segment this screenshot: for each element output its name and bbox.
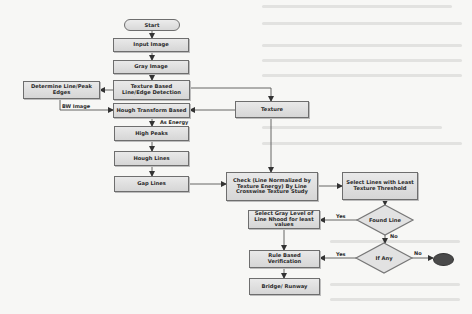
as-energy-label: As Energy [160,119,188,125]
gray-image-node: Gray Image [113,60,189,74]
select-gray-level-node: Select Gray Level of Line Nhood for leas… [248,210,320,229]
high-peaks-node: High Peaks [114,126,189,141]
hough-lines-node: Hough Lines [114,151,189,166]
rule-based-verification-node: Rule Based Verification [249,250,320,268]
end-node [433,253,454,266]
ifany-yes-label: Yes [336,251,346,257]
found-line-label: Found Line [369,217,401,223]
hough-transform-node: Hough Transform Based [113,103,190,118]
found-no-label: No [390,233,398,239]
start-node: Start [124,19,180,31]
ifany-no-label: No [414,250,422,256]
bw-image-label: BW Image [62,103,90,109]
texture-based-detection-node: Texture Based Line/Edge Detection [113,80,190,100]
texture-node: Texture [235,101,309,118]
input-image-node: Input Image [113,38,189,52]
if-any-label: If Any [375,255,392,261]
found-yes-label: Yes [336,213,346,219]
select-lines-threshold-node: Select Lines with Least Texture Threshol… [342,172,418,200]
check-texture-energy-node: Check (Line Normalized by Texture Energy… [226,172,318,201]
bridge-runway-node: Bridge/ Runway [249,278,320,295]
determine-edges-node: Determine Line/Peak Edges [23,81,100,99]
connector-lines [0,0,472,314]
gap-lines-node: Gap Lines [114,176,189,192]
